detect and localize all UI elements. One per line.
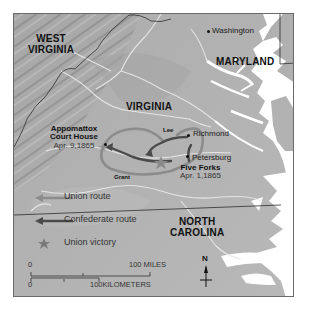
label-lee: Lee (163, 127, 173, 133)
legend-union-victory: Union victory (64, 238, 116, 247)
label-maryland: MARYLAND (216, 57, 274, 68)
legend-confederate-route: Confederate route (64, 215, 137, 224)
appomattox-date: Apr. 9,1865 (50, 142, 98, 150)
richmond-marker (187, 134, 190, 137)
five-forks-date: Apr. 1,1865 (180, 172, 221, 180)
label-north-carolina: NORTH CAROLINA (170, 217, 224, 238)
scale-km-end: 100KILOMETERS (90, 281, 151, 289)
label-carolina: CAROLINA (170, 228, 224, 239)
label-virginia: VIRGINIA (126, 102, 172, 113)
appomattox-marker (104, 143, 107, 146)
label-washington: Washington (212, 27, 254, 35)
label-north: NORTH (170, 217, 224, 228)
label-five-forks: Five Forks Apr. 1,1865 (180, 164, 221, 181)
scale-miles-start: 0 (28, 261, 32, 269)
scale-km-start: 0 (28, 281, 32, 289)
label-appomattox: Appomattox Court House Apr. 9,1865 (50, 125, 98, 150)
label-virginia-wv: VIRGINIA (28, 45, 74, 56)
label-west-virginia: WEST VIRGINIA (28, 34, 74, 55)
label-grant: Grant (114, 174, 130, 180)
legend-union-route: Union route (64, 192, 111, 201)
label-richmond: Richmond (193, 130, 229, 138)
label-petersburg: Petersburg (192, 154, 231, 162)
scale-miles-end: 100 MILES (129, 261, 166, 269)
washington-marker (207, 30, 210, 33)
label-west: WEST (28, 34, 74, 45)
north-label: N (202, 255, 208, 263)
petersburg-marker (186, 155, 189, 158)
